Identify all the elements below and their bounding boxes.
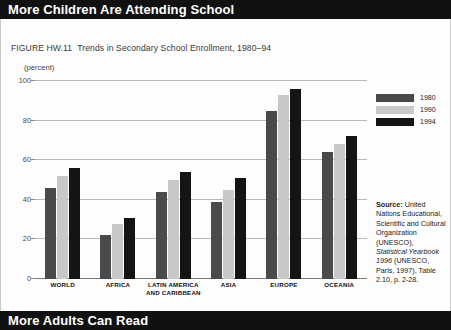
bar	[211, 202, 222, 279]
bar	[180, 172, 191, 279]
legend-item: 1990	[376, 105, 444, 114]
bottom-banner-title: More Adults Can Read	[8, 313, 148, 328]
plot-area: (percent) 020406080100 WORLDAFRICALATIN …	[12, 63, 367, 323]
figure-caption-text: Trends in Secondary School Enrollment, 1…	[77, 43, 271, 53]
figure-number: FIGURE HW.11	[11, 43, 72, 53]
figure-page: More Children Are Attending School FIGUR…	[0, 0, 451, 330]
figure-caption: FIGURE HW.11Trends in Secondary School E…	[11, 43, 271, 53]
bar-group	[256, 81, 311, 279]
bar	[112, 224, 123, 279]
y-axis-unit-label: (percent)	[24, 63, 54, 72]
bar	[100, 235, 111, 279]
x-axis-category-label: OCEANIA	[312, 281, 367, 297]
bar	[223, 190, 234, 279]
bar	[278, 95, 289, 279]
bar	[168, 180, 179, 279]
bar-group	[90, 81, 145, 279]
legend-label: 1990	[420, 106, 436, 113]
top-banner-title: More Children Are Attending School	[8, 2, 234, 17]
bar	[45, 188, 56, 279]
legend-swatch	[376, 106, 414, 114]
bar	[266, 111, 277, 279]
category-label-line: ASIA	[201, 281, 256, 289]
y-tick-label: 60	[23, 155, 31, 164]
chart-legend: 198019901994	[376, 93, 444, 129]
source-note: Source: United Nations Educational, Scie…	[376, 200, 446, 285]
figure-body: FIGURE HW.11Trends in Secondary School E…	[0, 19, 451, 311]
legend-label: 1980	[420, 94, 436, 101]
bar	[57, 176, 68, 279]
category-label-line: WORLD	[35, 281, 90, 289]
bar	[346, 136, 357, 279]
bar	[69, 168, 80, 279]
y-tick-label: 80	[23, 115, 31, 124]
legend-item: 1994	[376, 117, 444, 126]
bar-group	[146, 81, 201, 279]
bar	[156, 192, 167, 279]
legend-label: 1994	[420, 118, 436, 125]
category-label-line: AFRICA	[90, 281, 145, 289]
x-axis-category-label: EUROPE	[256, 281, 311, 297]
source-heading: Source:	[376, 200, 403, 209]
top-banner: More Children Are Attending School	[0, 0, 451, 19]
bar	[334, 144, 345, 279]
y-tick-label: 20	[23, 234, 31, 243]
x-axis-category-label: LATIN AMERICAAND CARIBBEAN	[146, 281, 201, 297]
x-axis-category-label: WORLD	[35, 281, 90, 297]
bar-group	[312, 81, 367, 279]
x-axis-category-labels: WORLDAFRICALATIN AMERICAAND CARIBBEANASI…	[35, 281, 367, 297]
bar	[290, 89, 301, 279]
legend-swatch	[376, 94, 414, 102]
bar	[124, 218, 135, 279]
category-label-line: OCEANIA	[312, 281, 367, 289]
y-tick-label: 40	[23, 194, 31, 203]
bar	[322, 152, 333, 279]
x-axis-category-label: AFRICA	[90, 281, 145, 297]
category-label-line: LATIN AMERICA	[146, 281, 201, 289]
plot-canvas: 020406080100 WORLDAFRICALATIN AMERICAAND…	[35, 81, 367, 279]
x-axis-category-label: ASIA	[201, 281, 256, 297]
bottom-banner: More Adults Can Read	[0, 311, 451, 330]
bar-groups	[35, 81, 367, 279]
bar-group	[35, 81, 90, 279]
legend-item: 1980	[376, 93, 444, 102]
bar	[235, 178, 246, 279]
category-label-line: AND CARIBBEAN	[146, 289, 201, 297]
legend-swatch	[376, 118, 414, 126]
y-tick-label: 100	[19, 76, 31, 85]
bar-group	[201, 81, 256, 279]
category-label-line: EUROPE	[256, 281, 311, 289]
